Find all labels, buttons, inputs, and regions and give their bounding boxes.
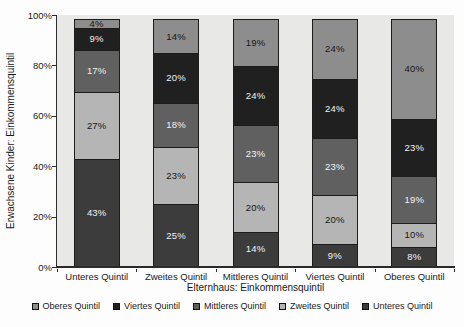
bar-segment: 18% bbox=[153, 103, 199, 148]
segment-data-label: 43% bbox=[87, 208, 107, 218]
legend-swatch-icon bbox=[113, 303, 120, 310]
bar-segment: 24% bbox=[312, 19, 358, 79]
y-tick-mark bbox=[52, 65, 56, 66]
y-tick-label: 20% bbox=[16, 211, 52, 222]
y-tick-mark bbox=[52, 267, 56, 268]
y-tick-label: 80% bbox=[16, 60, 52, 71]
bar-segment: 20% bbox=[153, 53, 199, 103]
x-axis-title: Elternhaus: Einkommensquintil bbox=[57, 282, 454, 293]
bar-segment: 9% bbox=[312, 244, 358, 267]
bar-segment: 9% bbox=[74, 28, 120, 51]
bar-segment: 20% bbox=[312, 195, 358, 245]
legend-item: Mittleres Quintil bbox=[193, 301, 266, 311]
y-axis-title: Erwachsene Kinder: Einkommensquintil bbox=[5, 15, 19, 267]
segment-data-label: 20% bbox=[166, 73, 186, 83]
y-tick-label: 60% bbox=[16, 110, 52, 121]
segment-data-label: 10% bbox=[404, 230, 424, 240]
legend-label: Zweites Quintil bbox=[290, 301, 349, 311]
x-category-label: Unteres Quintil bbox=[57, 271, 136, 282]
legend-swatch-icon bbox=[279, 303, 286, 310]
bar-segment: 17% bbox=[74, 50, 120, 93]
legend-item: Zweites Quintil bbox=[279, 301, 349, 311]
segment-data-label: 23% bbox=[325, 162, 345, 172]
segment-data-label: 23% bbox=[166, 171, 186, 181]
bar-segment: 24% bbox=[233, 66, 279, 126]
legend-swatch-icon bbox=[362, 303, 369, 310]
legend-item: Viertes Quintil bbox=[113, 301, 180, 311]
y-axis-line bbox=[56, 15, 57, 268]
segment-data-label: 24% bbox=[246, 91, 266, 101]
stacked-bar-chart: Erwachsene Kinder: Einkommensquintil 43%… bbox=[0, 0, 464, 327]
segment-data-label: 20% bbox=[325, 215, 345, 225]
bar-segment: 23% bbox=[391, 119, 437, 177]
segment-data-label: 14% bbox=[246, 244, 266, 254]
x-category-label: Oberes Quintil bbox=[375, 271, 454, 282]
segment-data-label: 8% bbox=[407, 252, 421, 262]
legend-label: Viertes Quintil bbox=[124, 301, 180, 311]
segment-data-label: 40% bbox=[404, 64, 424, 74]
segment-data-label: 23% bbox=[404, 143, 424, 153]
segment-data-label: 23% bbox=[246, 149, 266, 159]
y-tick-label: 100% bbox=[16, 10, 52, 21]
y-tick-label: 40% bbox=[16, 161, 52, 172]
bar-segment: 24% bbox=[312, 79, 358, 139]
bar-segment: 20% bbox=[233, 182, 279, 232]
segment-data-label: 9% bbox=[328, 251, 342, 261]
legend-label: Unteres Quintil bbox=[373, 301, 433, 311]
x-category-label: Zweites Quintil bbox=[136, 271, 215, 282]
plot-area: 43%27%17%9%4%25%23%18%20%14%14%20%23%24%… bbox=[57, 15, 454, 267]
legend-label: Oberes Quintil bbox=[43, 301, 101, 311]
bar-segment: 10% bbox=[391, 223, 437, 248]
y-tick-label: 0% bbox=[16, 262, 52, 273]
stacked-bar: 43%27%17%9%4% bbox=[74, 15, 120, 267]
bar-segment: 23% bbox=[312, 138, 358, 196]
legend-swatch-icon bbox=[32, 303, 39, 310]
bar-segment: 43% bbox=[74, 159, 120, 267]
bar-segment: 14% bbox=[233, 232, 279, 267]
stacked-bar: 14%20%23%24%19% bbox=[233, 15, 279, 267]
y-tick-mark bbox=[52, 116, 56, 117]
x-category-label: Mittleres Quintil bbox=[216, 271, 295, 282]
y-tick-mark bbox=[52, 166, 56, 167]
segment-data-label: 18% bbox=[166, 120, 186, 130]
legend: Oberes QuintilViertes QuintilMittleres Q… bbox=[0, 301, 464, 311]
legend-item: Unteres Quintil bbox=[362, 301, 433, 311]
bar-segment: 40% bbox=[391, 19, 437, 120]
segment-data-label: 19% bbox=[404, 195, 424, 205]
y-tick-mark bbox=[52, 15, 56, 16]
x-tick-mark bbox=[454, 269, 455, 272]
segment-data-label: 20% bbox=[246, 203, 266, 213]
segment-data-label: 19% bbox=[246, 38, 266, 48]
y-tick-mark bbox=[52, 217, 56, 218]
legend-swatch-icon bbox=[193, 303, 200, 310]
x-axis-line bbox=[56, 266, 455, 268]
bar-segment: 23% bbox=[153, 147, 199, 205]
stacked-bar: 8%10%19%23%40% bbox=[391, 15, 437, 267]
segment-data-label: 24% bbox=[325, 104, 345, 114]
bar-segment: 19% bbox=[233, 19, 279, 67]
legend-label: Mittleres Quintil bbox=[204, 301, 266, 311]
bar-segment: 14% bbox=[153, 19, 199, 54]
stacked-bar: 25%23%18%20%14% bbox=[153, 15, 199, 267]
segment-data-label: 14% bbox=[166, 32, 186, 42]
segment-data-label: 17% bbox=[87, 66, 107, 76]
stacked-bar: 9%20%23%24%24% bbox=[312, 15, 358, 267]
segment-data-label: 24% bbox=[325, 44, 345, 54]
segment-data-label: 25% bbox=[166, 231, 186, 241]
bar-segment: 8% bbox=[391, 247, 437, 267]
legend-item: Oberes Quintil bbox=[32, 301, 101, 311]
bar-segment: 27% bbox=[74, 92, 120, 160]
x-category-label: Viertes Quintil bbox=[295, 271, 374, 282]
segment-data-label: 27% bbox=[87, 121, 107, 131]
bar-segment: 23% bbox=[233, 125, 279, 183]
bar-segment: 25% bbox=[153, 204, 199, 267]
segment-data-label: 9% bbox=[90, 34, 104, 44]
bar-segment: 19% bbox=[391, 176, 437, 224]
